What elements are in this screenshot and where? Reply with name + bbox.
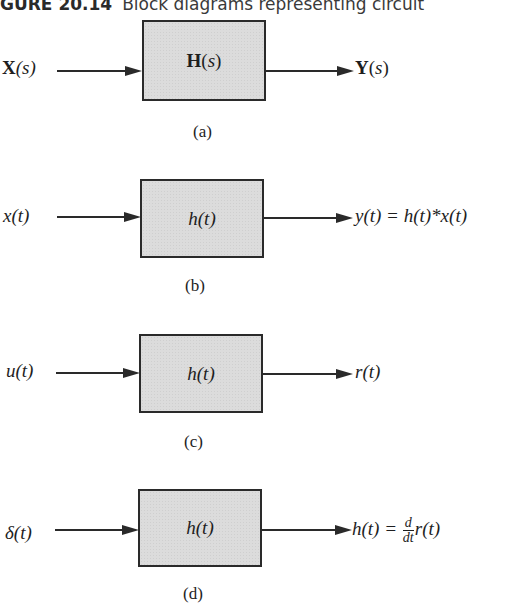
fraction-numerator: d — [403, 516, 414, 531]
figure-number: GURE 20.14 — [0, 0, 112, 14]
arrowhead-icon — [123, 368, 140, 378]
input-label-a: X(s) — [2, 57, 36, 79]
block-label-d: h(t) — [186, 517, 213, 539]
input-label-d: δ(t) — [5, 522, 32, 544]
fraction-denominator: dt — [403, 531, 414, 545]
output-lhs-d: h(t) = — [352, 518, 397, 539]
arrowhead-icon — [336, 369, 353, 379]
sublabel-b: (b) — [185, 276, 205, 296]
block-label-b: h(t) — [188, 208, 215, 230]
block-b: h(t) — [140, 179, 264, 258]
arrowhead-icon — [125, 66, 142, 76]
block-c: h(t) — [139, 334, 263, 413]
output-arrow-line-c — [263, 373, 339, 375]
output-arrow-line-b — [264, 217, 339, 219]
block-d: h(t) — [138, 489, 262, 567]
derivative-fraction: d dt — [403, 516, 414, 545]
output-arrow-line-a — [266, 70, 340, 72]
input-arrow-line-d — [55, 529, 125, 531]
input-label-c: u(t) — [6, 360, 33, 382]
input-label-b: x(t) — [3, 205, 29, 227]
input-arrow-line-a — [57, 70, 127, 72]
block-label-c: h(t) — [187, 363, 214, 385]
arrowhead-icon — [337, 66, 354, 76]
arrowhead-icon — [124, 212, 141, 222]
sublabel-a: (a) — [193, 122, 212, 142]
output-label-d: h(t) = d dt r(t) — [352, 516, 440, 545]
figure-caption: GURE 20.14Block diagrams representing ci… — [0, 0, 424, 14]
sublabel-c: (c) — [184, 432, 203, 452]
arrowhead-icon — [335, 525, 352, 535]
output-arrow-line-d — [262, 529, 338, 531]
arrowhead-icon — [122, 525, 139, 535]
block-a: H(s) — [142, 20, 266, 101]
output-label-a: Y(s) — [355, 57, 389, 79]
output-rhs-d: r(t) — [415, 518, 440, 539]
input-arrow-line-c — [56, 372, 126, 374]
sublabel-d: (d) — [183, 584, 203, 604]
arrowhead-icon — [336, 213, 353, 223]
input-arrow-line-b — [57, 216, 127, 218]
output-label-b: y(t) = h(t)*x(t) — [355, 205, 467, 227]
figure-title: Block diagrams representing circuit — [122, 0, 424, 14]
block-label-a: H(s) — [187, 50, 222, 72]
output-label-c: r(t) — [355, 361, 380, 383]
